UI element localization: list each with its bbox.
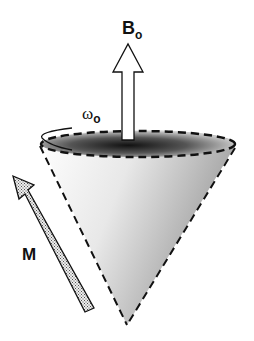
magnetization-label: M [22,245,36,265]
precession-diagram [0,0,254,341]
b-field-label: Bo [122,18,142,42]
b-field-subscript: o [135,28,142,42]
omega-symbol: ω [82,104,93,123]
cone-body [40,130,236,325]
b-field-symbol: B [122,18,135,38]
frequency-label: ωo [82,104,101,126]
omega-subscript: o [93,112,100,126]
b-field-arrow-icon [113,44,143,140]
